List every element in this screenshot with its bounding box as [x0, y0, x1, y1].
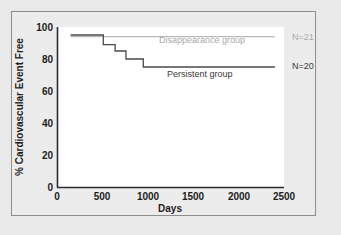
y-tick-label-100: 100 [36, 22, 53, 33]
x-tick-label-2000: 2000 [228, 191, 251, 202]
x-axis-title: Days [158, 203, 182, 214]
y-tick-label-40: 40 [42, 118, 54, 129]
x-tick-label-500: 500 [94, 191, 111, 202]
kaplan-meier-chart: 100 80 60 40 20 0 0 500 1000 1500 2000 2… [0, 0, 341, 235]
n-label-disappearance-group: N=21 [292, 32, 314, 42]
y-tick-label-0: 0 [47, 182, 53, 193]
y-tick-label-80: 80 [42, 54, 54, 65]
y-tick-label-60: 60 [42, 86, 54, 97]
series-label-disappearance-group: Disappearance group [159, 35, 245, 45]
x-tick-label-0: 0 [54, 191, 60, 202]
x-tick-label-1500: 1500 [182, 191, 205, 202]
plot-area-background [57, 27, 284, 187]
series-label-persistent-group: Persistent group [167, 69, 233, 79]
x-tick-label-2500: 2500 [273, 191, 296, 202]
figure-root: 100 80 60 40 20 0 0 500 1000 1500 2000 2… [0, 0, 341, 235]
y-tick-label-20: 20 [42, 150, 54, 161]
n-label-persistent-group: N=20 [292, 61, 314, 71]
y-axis-title: % Cardiovascular Event Free [14, 38, 25, 176]
x-tick-label-1000: 1000 [137, 191, 160, 202]
